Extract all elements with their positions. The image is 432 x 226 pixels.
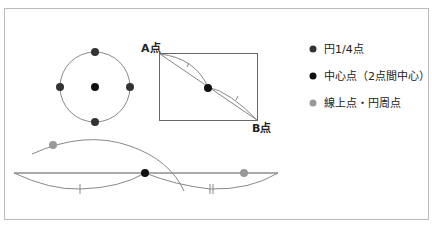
diagram-canvas: A点 B点 円1/4点 中心点（2点間中心） 線上点・円周点	[0, 0, 432, 226]
frame	[5, 9, 429, 220]
rect-midpoint	[204, 84, 212, 92]
legend-center: 中心点（2点間中心）	[324, 70, 430, 83]
legend-dot-line	[310, 100, 317, 107]
arc-point	[49, 141, 57, 149]
legend-dot-quarter	[310, 46, 317, 53]
line-point	[240, 169, 248, 177]
legend-dot-center	[310, 73, 317, 80]
legend-quarter: 円1/4点	[324, 43, 364, 56]
legend-line: 線上点・円周点	[324, 96, 401, 110]
label-a: A点	[141, 41, 161, 55]
circle-center-point	[91, 83, 99, 91]
label-b: B点	[252, 121, 271, 135]
line-center-point	[141, 169, 149, 177]
